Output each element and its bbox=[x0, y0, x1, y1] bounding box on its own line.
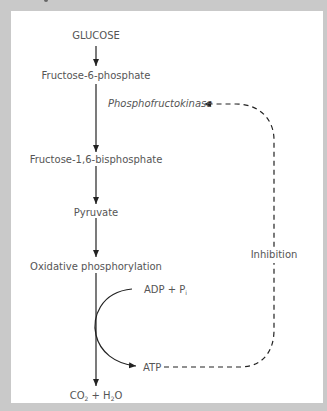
pathway-arrows bbox=[0, 0, 327, 411]
node-pyruvate: Pyruvate bbox=[74, 207, 119, 219]
atp-synthesis-curve bbox=[95, 289, 136, 366]
node-fructose-1-6-bisphosphate: Fructose-1,6-bisphosphate bbox=[30, 154, 163, 166]
node-co2-h2o: CO2 + H2O bbox=[70, 390, 123, 405]
node-atp: ATP bbox=[143, 362, 161, 374]
inhibition-feedback-dashed bbox=[164, 104, 274, 367]
node-fructose-6-phosphate: Fructose-6-phosphate bbox=[42, 70, 151, 82]
enzyme-phosphofructokinase: Phosphofructokinase bbox=[108, 98, 212, 110]
node-adp-pi: ADP + Pi bbox=[144, 284, 187, 299]
node-oxidative-phosphorylation: Oxidative phosphorylation bbox=[30, 261, 162, 273]
label-inhibition: Inhibition bbox=[251, 247, 298, 263]
node-glucose: GLUCOSE bbox=[72, 30, 120, 42]
